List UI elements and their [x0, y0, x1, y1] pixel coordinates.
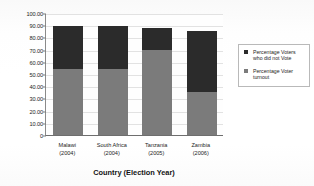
x-axis-label-year: (2006) — [179, 150, 224, 158]
legend-item-did-not-vote: Percentage Voters who did not Vote — [242, 49, 306, 62]
y-axis-tick-mark — [43, 136, 46, 137]
legend-swatch-icon — [244, 69, 248, 73]
y-axis-tick-label: 80.00 — [30, 35, 44, 41]
x-axis-label: Tanzania(2005) — [134, 142, 179, 157]
x-axis-label: Zambia(2006) — [179, 142, 224, 157]
y-axis-tick-label: 0 — [40, 133, 43, 139]
y-axis-tick-label: 50.00 — [30, 72, 44, 78]
bar-segment-voter-turnout — [142, 50, 172, 135]
y-axis-tick-label: 20.00 — [30, 109, 44, 115]
bar-stack — [98, 26, 128, 135]
bar-segment-voter-turnout — [187, 92, 217, 135]
x-axis-label-year: (2005) — [134, 150, 179, 158]
y-axis-tick-label: 70.00 — [30, 48, 44, 54]
legend-label: Percentage Voter turnout — [253, 68, 293, 81]
x-axis-label-country: Malawi — [45, 142, 90, 150]
bar-segment-did-not-vote — [53, 26, 83, 68]
bar-segment-voter-turnout — [53, 69, 83, 135]
x-axis-label-country: South Africa — [90, 142, 135, 150]
bar-segment-voter-turnout — [98, 69, 128, 135]
y-axis-tick-label: 90.00 — [30, 23, 44, 29]
bar-segment-did-not-vote — [187, 31, 217, 92]
x-axis-label: Malawi(2004) — [45, 142, 90, 157]
bars-layer — [46, 14, 223, 135]
legend-label: Percentage Voters who did not Vote — [253, 49, 296, 62]
x-axis-tick-labels: Malawi(2004)South Africa(2004)Tanzania(2… — [45, 138, 223, 160]
legend-item-voter-turnout: Percentage Voter turnout — [242, 68, 306, 81]
bar-stack — [53, 26, 83, 135]
x-axis-label-country: Zambia — [179, 142, 224, 150]
y-axis-tick-label: 10.00 — [30, 121, 44, 127]
stacked-bar-chart: Voter Turnout Percentage 100.0090.0080.0… — [0, 0, 314, 186]
x-axis-label-country: Tanzania — [134, 142, 179, 150]
y-axis-tick-label: 60.00 — [30, 60, 44, 66]
legend-label-line1: Percentage Voters — [253, 49, 296, 55]
bar-stack — [187, 31, 217, 135]
x-axis-title: Country (Election Year) — [45, 168, 223, 177]
bar-stack — [142, 28, 172, 135]
y-axis-tick-label: 40.00 — [30, 84, 44, 90]
x-axis-label-year: (2004) — [90, 150, 135, 158]
plot-area: 100.0090.0080.0070.0060.0050.0040.0030.0… — [45, 14, 223, 136]
legend-label-line2: turnout — [253, 74, 269, 80]
bar-segment-did-not-vote — [98, 26, 128, 68]
chart-legend: Percentage Voters who did not Vote Perce… — [238, 44, 310, 87]
bar-segment-did-not-vote — [142, 28, 172, 49]
x-axis-label-year: (2004) — [45, 150, 90, 158]
legend-label-line1: Percentage Voter — [253, 68, 293, 74]
y-axis-tick-label: 100.00 — [26, 11, 43, 17]
x-axis-label: South Africa(2004) — [90, 142, 135, 157]
y-axis-tick-label: 30.00 — [30, 96, 44, 102]
legend-swatch-icon — [244, 50, 248, 54]
legend-label-line2: who did not Vote — [253, 55, 291, 61]
